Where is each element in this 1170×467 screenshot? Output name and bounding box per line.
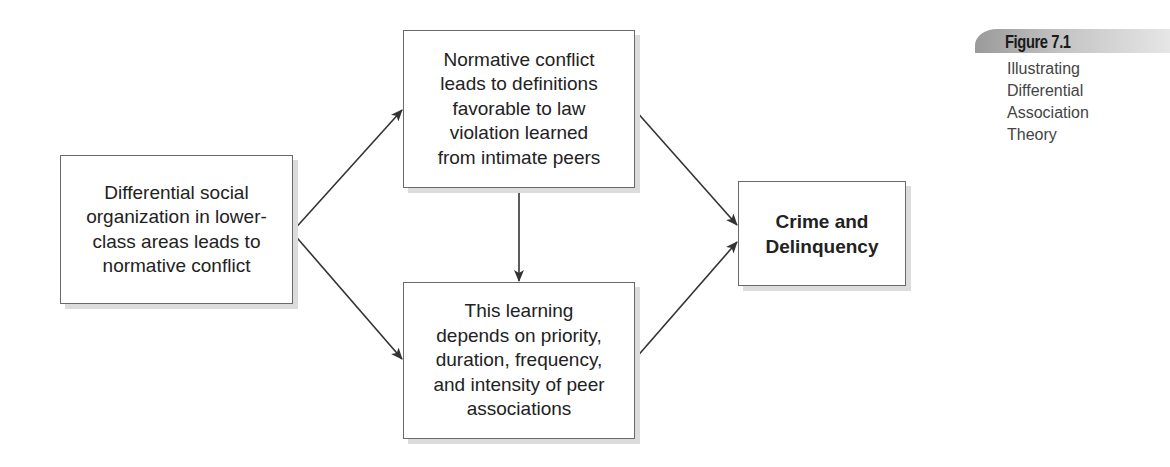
node-text-line: from intimate peers (438, 146, 601, 171)
node-crime-and-delinquency: Crime and Delinquency (738, 181, 906, 286)
node-text-line: favorable to law (438, 97, 601, 122)
caption-line: Theory (1007, 124, 1167, 146)
node-text-line: and intensity of peer (433, 373, 604, 398)
node-text-line: Delinquency (766, 234, 879, 259)
caption-line: Association (1007, 102, 1167, 124)
node-social-organization: Differential social organization in lowe… (60, 155, 293, 304)
node-text-line: Crime and (766, 209, 879, 234)
node-text-line: leads to definitions (438, 72, 601, 97)
node-learning: This learning depends on priority, durat… (403, 282, 635, 439)
arrow-learning-to-outcome (635, 242, 737, 359)
figure-caption: Illustrating Differential Association Th… (1007, 58, 1167, 146)
figure-label: Figure 7.1 (1005, 30, 1071, 54)
arrow-social-to-learning (292, 232, 402, 359)
caption-line: Differential (1007, 80, 1167, 102)
node-text-line: associations (433, 397, 604, 422)
node-text-line: Differential social (86, 181, 267, 206)
node-text-line: class areas leads to (86, 230, 267, 255)
node-text-line: violation learned (438, 121, 601, 146)
node-text-line: Normative conflict (438, 48, 601, 73)
node-normative-conflict: Normative conflict leads to definitions … (403, 30, 635, 188)
node-text-line: This learning (433, 299, 604, 324)
node-text-line: organization in lower- (86, 205, 267, 230)
arrow-conflict-to-outcome (635, 110, 737, 225)
caption-line: Illustrating (1007, 58, 1167, 80)
node-text-line: depends on priority, (433, 324, 604, 349)
node-text-line: normative conflict (86, 254, 267, 279)
diagram-canvas: Differential social organization in lowe… (0, 0, 1170, 467)
arrow-social-to-conflict (292, 110, 402, 232)
node-text-line: duration, frequency, (433, 348, 604, 373)
